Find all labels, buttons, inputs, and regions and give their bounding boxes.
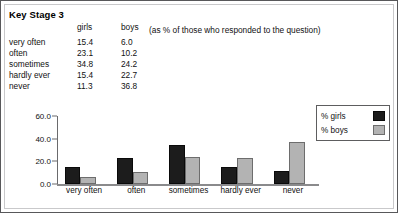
y-axis-tick-label: 40.0 <box>35 134 51 143</box>
chart-annotation: (as % of those who responded to the ques… <box>149 25 321 35</box>
table-row: never 11.3 36.8 <box>9 82 165 93</box>
bar-girls <box>65 167 81 184</box>
bar-group <box>215 116 267 184</box>
row-boys-value: 24.2 <box>121 60 165 71</box>
bar-girls <box>274 171 290 184</box>
row-label: very often <box>9 38 77 49</box>
document-page: Key Stage 3 girls boys very often 15.4 6… <box>0 0 398 213</box>
row-girls-value: 15.4 <box>77 38 121 49</box>
row-girls-value: 34.8 <box>77 60 121 71</box>
legend-swatch-boys-icon <box>373 125 385 135</box>
row-boys-value: 10.2 <box>121 49 165 60</box>
chart-legend: % girls % boys <box>316 105 390 141</box>
legend-label-girls: % girls <box>321 112 346 121</box>
x-axis-tick-label: sometimes <box>169 186 209 195</box>
bar-boys <box>237 158 253 184</box>
row-girls-value: 11.3 <box>77 82 121 93</box>
legend-item-boys: % boys <box>321 123 385 137</box>
bar-group <box>110 116 162 184</box>
table-header-row: girls boys <box>9 23 165 38</box>
bar-boys <box>133 172 149 184</box>
bar-chart: 0.020.040.060.0 very oftenoftensometimes… <box>1 105 398 205</box>
row-girls-value: 15.4 <box>77 71 121 82</box>
y-axis-tick-label: 0.0 <box>40 180 51 189</box>
y-axis-tick-label: 60.0 <box>35 112 51 121</box>
x-axis-tick-label: often <box>127 186 145 195</box>
bar-boys <box>185 157 201 184</box>
row-label: often <box>9 49 77 60</box>
x-axis-tick-label: never <box>283 186 303 195</box>
row-label: sometimes <box>9 60 77 71</box>
bar-group <box>58 116 110 184</box>
bar-group <box>267 116 319 184</box>
bar-girls <box>221 167 237 184</box>
x-axis-tick-label: very often <box>66 186 102 195</box>
row-boys-value: 36.8 <box>121 82 165 93</box>
x-axis-tick-label: hardly ever <box>220 186 261 195</box>
legend-swatch-girls-icon <box>373 111 385 121</box>
header-girls: girls <box>77 23 121 38</box>
bar-girls <box>117 158 133 184</box>
table-row: very often 15.4 6.0 <box>9 38 165 49</box>
legend-label-boys: % boys <box>321 126 348 135</box>
page-title: Key Stage 3 <box>9 9 64 20</box>
row-boys-value: 22.7 <box>121 71 165 82</box>
y-axis-labels: 0.020.040.060.0 <box>15 105 51 185</box>
bar-boys <box>289 142 305 184</box>
y-axis-tick-label: 20.0 <box>35 157 51 166</box>
bar-boys <box>80 177 96 184</box>
row-girls-value: 23.1 <box>77 49 121 60</box>
table-row: sometimes 34.8 24.2 <box>9 60 165 71</box>
row-label: hardly ever <box>9 71 77 82</box>
plot-area <box>58 116 319 184</box>
table-row: hardly ever 15.4 22.7 <box>9 71 165 82</box>
bar-girls <box>169 145 185 184</box>
row-boys-value: 6.0 <box>121 38 165 49</box>
bar-group <box>162 116 214 184</box>
header-category <box>9 23 77 38</box>
legend-item-girls: % girls <box>321 109 385 123</box>
data-table: girls boys very often 15.4 6.0 often 23.… <box>9 23 165 93</box>
row-label: never <box>9 82 77 93</box>
table-row: often 23.1 10.2 <box>9 49 165 60</box>
